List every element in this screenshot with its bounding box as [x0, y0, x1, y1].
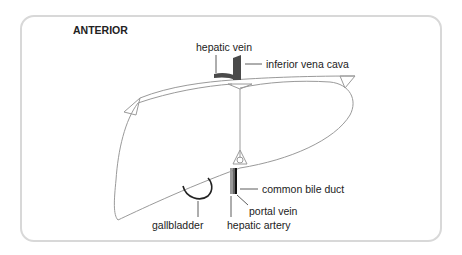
diagram-title: ANTERIOR [73, 24, 128, 36]
label-common-bile-duct: common bile duct [262, 183, 344, 195]
label-portal-vein: portal vein [249, 205, 298, 217]
label-gallbladder: gallbladder [152, 219, 204, 231]
label-inferior-vena-cava: inferior vena cava [266, 58, 349, 70]
common-bile-duct-shape [235, 168, 237, 194]
portal-vein-shape [233, 168, 236, 194]
label-hepatic-artery: hepatic artery [227, 219, 291, 231]
label-hepatic-vein: hepatic vein [196, 41, 252, 53]
hepatic-vein-shape [214, 73, 236, 80]
liver-outline [114, 76, 355, 220]
hepatic-artery-shape [230, 168, 233, 194]
liver-diagram: ANTERIOR hepa [0, 0, 462, 255]
